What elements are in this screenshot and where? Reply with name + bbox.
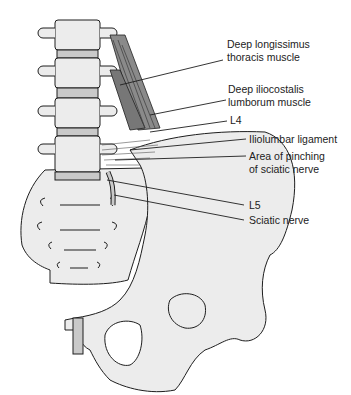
label-area-of-pinching: Area of pinching of sciatic nerve — [249, 150, 325, 175]
label-deep-iliocostalis: Deep iliocostalis lumborum muscle — [228, 83, 311, 108]
label-l5: L5 — [249, 199, 261, 212]
lumbar-vertebrae — [38, 20, 117, 180]
label-l4: L4 — [230, 114, 242, 127]
label-iliolumbar-ligament: Iliolumbar ligament — [249, 133, 337, 146]
label-sciatic-nerve: Sciatic nerve — [249, 214, 309, 227]
label-deep-longissimus: Deep longissimus thoracis muscle — [227, 38, 310, 63]
sacrum — [21, 168, 151, 284]
erector-spinae-muscles — [110, 35, 160, 130]
pubic-symphysis — [73, 318, 83, 354]
